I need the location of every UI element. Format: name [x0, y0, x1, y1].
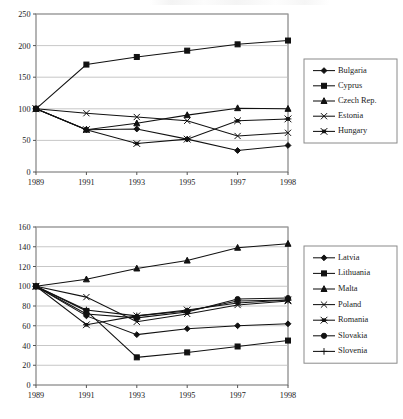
- x-tick-label: 1997: [229, 391, 245, 400]
- legend-label-poland: Poland: [338, 300, 362, 309]
- legend-label-hungary: Hungary: [338, 126, 368, 135]
- plot-area-bottom: 0204060801001201401601989199119931995199…: [18, 223, 296, 400]
- data-point-1-3: [185, 48, 190, 53]
- legend-label-czech-rep: Czech Rep.: [338, 96, 377, 105]
- legend-label-cyprus: Cyprus: [338, 81, 362, 90]
- y-tick-label: 120: [18, 263, 30, 272]
- chart-top-svg: 050100150200250198919911993199519971998 …: [0, 0, 403, 208]
- x-tick-label: 1997: [229, 178, 245, 187]
- plot-area-top: 050100150200250198919911993199519971998: [18, 10, 296, 187]
- y-tick-label: 80: [22, 302, 30, 311]
- legend-marker-1: [322, 83, 327, 88]
- y-tick-label: 250: [18, 10, 30, 19]
- data-point-1-5: [286, 338, 291, 343]
- data-point-1-4: [235, 344, 240, 349]
- y-tick-label: 100: [18, 105, 30, 114]
- data-point-1-1: [84, 62, 89, 67]
- data-point-1-2: [134, 54, 139, 59]
- legend-marker-1: [322, 271, 327, 276]
- x-tick-label: 1998: [280, 391, 296, 400]
- legend-top: BulgariaCyprusCzech Rep.EstoniaHungary: [304, 59, 397, 143]
- y-tick-label: 200: [18, 42, 30, 51]
- legend-label-estonia: Estonia: [338, 111, 363, 120]
- x-tick-label: 1993: [129, 178, 145, 187]
- y-tick-label: 60: [22, 322, 30, 331]
- legend-label-latvia: Latvia: [338, 253, 360, 262]
- legend-marker-5: [321, 333, 326, 338]
- data-point-1-2: [134, 355, 139, 360]
- y-tick-label: 20: [22, 361, 30, 370]
- legend-label-lithuania: Lithuania: [338, 268, 370, 277]
- y-tick-label: 40: [22, 342, 30, 351]
- legend-bottom: LatviaLithuaniaMaltaPolandRomaniaSlovaki…: [304, 246, 397, 363]
- x-tick-label: 1991: [78, 178, 94, 187]
- y-tick-label: 140: [18, 243, 30, 252]
- x-tick-label: 1989: [28, 178, 44, 187]
- y-tick-label: 0: [26, 168, 30, 177]
- legend-label-romania: Romania: [338, 315, 369, 324]
- x-tick-label: 1993: [129, 391, 145, 400]
- y-tick-label: 150: [18, 73, 30, 82]
- legend-label-slovenia: Slovenia: [338, 346, 368, 355]
- legend-label-bulgaria: Bulgaria: [338, 66, 367, 75]
- y-tick-label: 0: [26, 381, 30, 390]
- data-point-1-4: [235, 42, 240, 47]
- y-tick-label: 50: [22, 136, 30, 145]
- y-tick-label: 160: [18, 223, 30, 232]
- data-point-1-3: [185, 350, 190, 355]
- chart-bottom-svg: 0204060801001201401601989199119931995199…: [0, 210, 403, 419]
- x-tick-label: 1995: [179, 391, 195, 400]
- page-artifact-smudge: [150, 0, 330, 5]
- data-point-1-5: [286, 38, 291, 43]
- x-tick-label: 1998: [280, 178, 296, 187]
- chart-panel-bottom: 0204060801001201401601989199119931995199…: [0, 210, 403, 419]
- x-tick-label: 1995: [179, 178, 195, 187]
- y-tick-label: 100: [18, 282, 30, 291]
- legend-label-slovakia: Slovakia: [338, 331, 368, 340]
- chart-panel-top: 050100150200250198919911993199519971998 …: [0, 0, 403, 208]
- x-tick-label: 1991: [78, 391, 94, 400]
- x-tick-label: 1989: [28, 391, 44, 400]
- legend-label-malta: Malta: [338, 284, 358, 293]
